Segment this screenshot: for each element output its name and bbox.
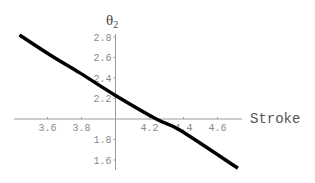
y-tick-label: 1.6 <box>93 156 111 167</box>
y-tick-label: 2.6 <box>93 53 111 64</box>
y-ticks: 2.82.62.42.21.81.6 <box>93 33 115 167</box>
x-tick-label: 4.6 <box>208 123 226 134</box>
y-tick-label: 2.8 <box>93 33 111 44</box>
y-tick-label: 1.8 <box>93 135 111 146</box>
data-line <box>19 35 237 168</box>
y-axis-label: θ2 <box>106 12 118 30</box>
x-ticks: 3.63.84.24.44.6 <box>38 117 226 134</box>
x-tick-label: 3.8 <box>72 123 90 134</box>
line-chart: 3.63.84.24.44.6 Stroke 2.82.62.42.21.81.… <box>0 0 315 183</box>
x-axis: 3.63.84.24.44.6 Stroke <box>14 111 300 134</box>
x-tick-label: 4.2 <box>140 123 158 134</box>
y-axis-label-subscript: 2 <box>113 19 118 30</box>
x-axis-label: Stroke <box>250 111 300 127</box>
y-tick-label: 2.2 <box>93 94 111 105</box>
data-series <box>19 35 237 168</box>
x-tick-label: 3.6 <box>38 123 56 134</box>
y-axis-label-main: θ <box>106 12 113 28</box>
